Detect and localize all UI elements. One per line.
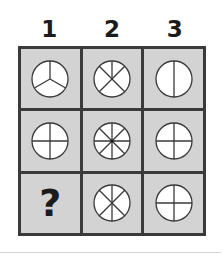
column-headers: 1 2 3 <box>18 14 206 44</box>
column-header-2: 2 <box>81 14 144 44</box>
cell-r2-c2 <box>83 111 142 170</box>
cell-r1-c3 <box>144 49 203 108</box>
cell-r3-c2 <box>83 174 142 233</box>
circle-2-segments-icon <box>154 59 194 99</box>
circle-5-segments-icon <box>92 59 132 99</box>
circle-4-segments-icon <box>30 121 70 161</box>
circle-4-segments-icon <box>154 183 194 223</box>
column-header-3: 3 <box>143 14 206 44</box>
cell-r2-c3 <box>144 111 203 170</box>
circle-3-segments-icon <box>30 59 70 99</box>
circle-4-segments-icon <box>154 121 194 161</box>
cell-r2-c1 <box>21 111 80 170</box>
circle-8-segments-icon <box>92 121 132 161</box>
cell-r3-c1: ? <box>21 174 80 233</box>
missing-answer-placeholder: ? <box>39 184 61 222</box>
cell-r1-c1 <box>21 49 80 108</box>
column-header-1: 1 <box>18 14 81 44</box>
cell-r1-c2 <box>83 49 142 108</box>
cell-r3-c3 <box>144 174 203 233</box>
puzzle-grid: ? <box>18 46 206 236</box>
circle-6-segments-icon <box>92 183 132 223</box>
